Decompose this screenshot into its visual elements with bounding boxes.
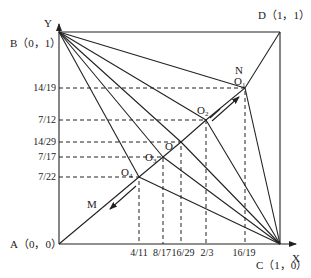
svg-text:O: O (121, 166, 129, 178)
corner-A-label: A（0，0） (10, 238, 62, 250)
svg-text:4/11: 4/11 (130, 247, 147, 258)
svg-text:14/29: 14/29 (33, 136, 56, 147)
point-O4: O 4 (121, 166, 133, 180)
arrow-toward-N (210, 97, 239, 121)
svg-text:O: O (234, 75, 242, 87)
svg-text:2/3: 2/3 (201, 247, 214, 258)
svg-text:4: 4 (129, 172, 133, 180)
lines-to-C (139, 88, 280, 244)
point-O: O (165, 140, 173, 152)
svg-text:7/22: 7/22 (38, 171, 56, 182)
svg-text:3: 3 (153, 157, 157, 165)
path-A-to-D (59, 32, 280, 244)
unit-square (59, 32, 280, 244)
geometry-diagram: Y X N M (0, 0, 311, 278)
point-O3: O 3 (145, 151, 157, 165)
svg-text:O: O (197, 104, 205, 116)
point-O1: O 1 (234, 75, 246, 89)
svg-text:O: O (165, 140, 173, 152)
x-tick-labels: 4/11 8/17 16/29 2/3 16/19 (130, 247, 255, 258)
svg-text:16/29: 16/29 (172, 247, 195, 258)
svg-text:1: 1 (242, 81, 246, 89)
svg-text:16/19: 16/19 (233, 247, 256, 258)
svg-text:7/17: 7/17 (38, 151, 56, 162)
svg-text:8/17: 8/17 (153, 247, 171, 258)
svg-text:2: 2 (205, 110, 209, 118)
label-M: M (87, 198, 97, 210)
corner-C-label: C（1，0） (256, 259, 307, 271)
svg-text:7/12: 7/12 (38, 114, 56, 125)
point-O2: O 2 (197, 104, 209, 118)
y-axis-label: Y (44, 17, 52, 29)
svg-text:O: O (145, 151, 153, 163)
corner-B-label: B（0，1） (10, 37, 61, 49)
y-tick-labels: 14/19 7/12 14/29 7/17 7/22 (33, 82, 56, 182)
svg-text:14/19: 14/19 (33, 82, 56, 93)
corner-D-label: D（1，1） (258, 9, 310, 21)
